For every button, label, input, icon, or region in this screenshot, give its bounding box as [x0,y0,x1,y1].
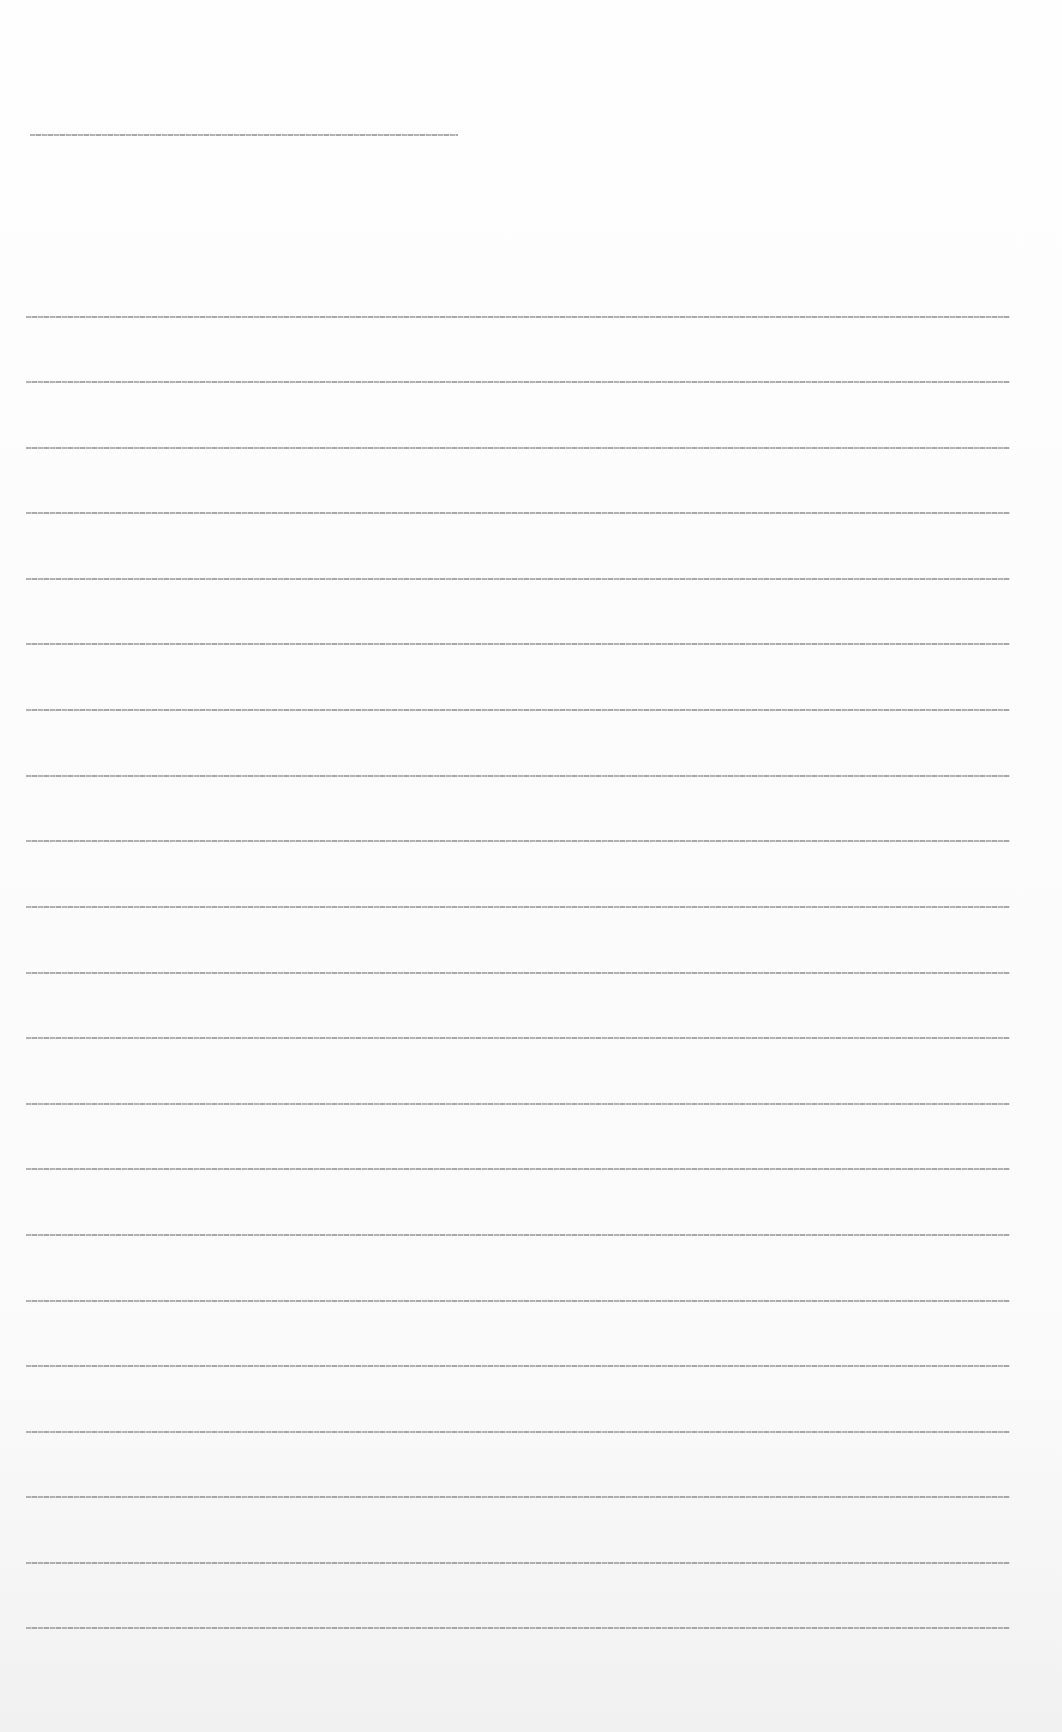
heading-line [30,134,458,136]
body-text-line [26,447,1010,449]
body-text-line [26,1168,1010,1170]
document-page [0,0,1062,1732]
body-text-line [26,1037,1010,1039]
body-text-line [26,1365,1010,1367]
body-text-line [26,709,1010,711]
body-text-line [26,972,1010,974]
body-text-line [26,381,1010,383]
body-text-line [26,1234,1010,1236]
body-text-line [26,1562,1010,1564]
body-text-line [26,1627,1010,1629]
body-text-line [26,840,1010,842]
body-text-line [26,643,1010,645]
body-text-line [26,906,1010,908]
body-text-line [26,316,1010,318]
body-text-line [26,1103,1010,1105]
body-text-line [26,1496,1010,1498]
body-text-line [26,1300,1010,1302]
body-text-line [26,512,1010,514]
body-text-line [26,578,1010,580]
body-text-line [26,775,1010,777]
body-text-line [26,1431,1010,1433]
